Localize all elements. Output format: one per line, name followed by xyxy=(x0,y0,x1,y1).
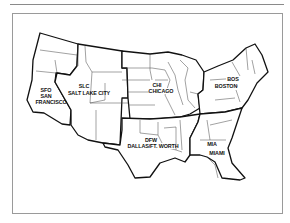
region-name-sfo-line2: FRANCISCO xyxy=(35,99,66,105)
region-code-slc: SLC xyxy=(79,83,90,89)
region-name-dfw: DALLAS/FT. WORTH xyxy=(127,143,178,149)
us-region-map: SFO SAN FRANCISCO SLC SALT LAKE CITY CHI… xyxy=(0,0,290,223)
region-name-chi: CHICAGO xyxy=(149,88,174,94)
region-code-bos: BOS xyxy=(227,76,239,82)
region-code-mia: MIA xyxy=(207,141,217,147)
region-name-mia: MIAMI xyxy=(209,150,225,156)
region-name-slc: SALT LAKE CITY xyxy=(68,90,111,96)
region-central[interactable] xyxy=(122,51,204,119)
region-name-bos: BOSTON xyxy=(215,83,238,89)
